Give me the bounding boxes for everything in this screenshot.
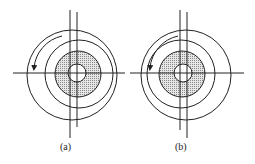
figure-b-label: (b) <box>175 141 187 153</box>
diagram-canvas: (a) (b) <box>0 0 255 164</box>
figure-a-label: (a) <box>60 141 71 153</box>
figure-a <box>13 10 125 138</box>
figure-b <box>130 10 244 138</box>
